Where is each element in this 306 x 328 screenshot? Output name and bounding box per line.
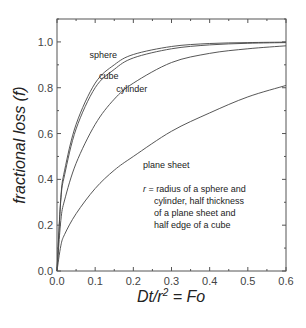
curves xyxy=(57,42,286,271)
y-tick-label: 1.0 xyxy=(38,36,53,48)
annotation-line: r = radius of a sphere and xyxy=(143,184,246,194)
y-tick-label: 0.6 xyxy=(38,128,53,140)
fractional-loss-chart: 0.00.10.20.30.40.50.60.00.20.40.60.81.0 … xyxy=(0,0,306,328)
curve-label: cylinder xyxy=(116,84,147,94)
axis-ticks: 0.00.10.20.30.40.50.60.00.20.40.60.81.0 xyxy=(38,19,294,287)
curve-sphere xyxy=(57,42,286,271)
curve-cube xyxy=(57,43,286,271)
annotation-line: cylinder, half thickness xyxy=(154,196,245,206)
x-tick-label: 0.2 xyxy=(126,275,141,287)
y-axis-title: fractional loss (f) xyxy=(11,86,28,203)
annotation-line: of a plane sheet and xyxy=(154,208,236,218)
x-tick-label: 0.3 xyxy=(164,275,179,287)
y-tick-label: 0.4 xyxy=(38,173,53,185)
curve-label: cube xyxy=(99,71,119,81)
x-tick-label: 0.1 xyxy=(88,275,103,287)
curve-cylinder xyxy=(57,46,286,271)
curve-label: plane sheet xyxy=(143,160,190,170)
x-axis-title: Dt/r2 = Fo xyxy=(137,287,205,305)
annotation-text: r = radius of a sphere andcylinder, half… xyxy=(143,184,246,230)
x-tick-label: 0.6 xyxy=(278,275,293,287)
y-tick-label: 0.8 xyxy=(38,82,53,94)
y-tick-label: 0.2 xyxy=(38,219,53,231)
curve-plane-sheet xyxy=(57,85,286,271)
annotation-line: half edge of a cube xyxy=(154,220,231,230)
x-tick-label: 0.4 xyxy=(202,275,217,287)
x-tick-label: 0.5 xyxy=(240,275,255,287)
y-tick-label: 0.0 xyxy=(38,265,53,277)
curve-label: sphere xyxy=(89,50,117,60)
